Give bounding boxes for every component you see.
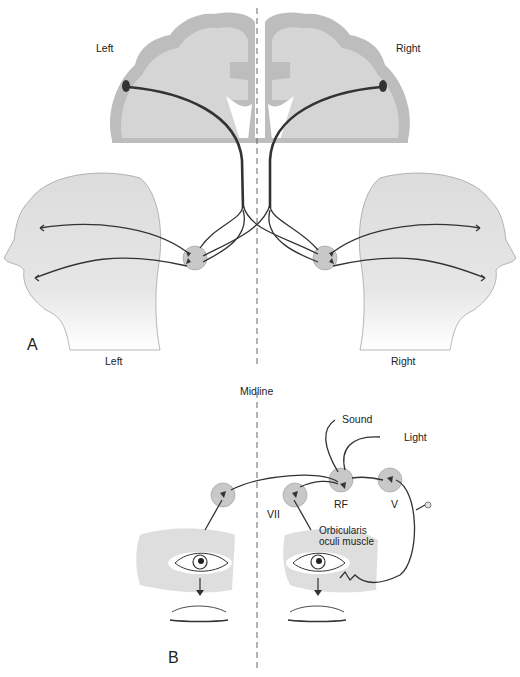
head-left bbox=[4, 173, 161, 350]
sound-label: Sound bbox=[342, 414, 372, 425]
vii-label: VII bbox=[267, 509, 280, 520]
panel-b-label: B bbox=[168, 650, 179, 666]
head-right-label: Right bbox=[391, 356, 416, 367]
figure-canvas: Left Right A Left Right Midline Sound Li… bbox=[0, 0, 520, 677]
v-label: V bbox=[391, 499, 398, 510]
brain-right-label: Right bbox=[396, 43, 421, 54]
orbicularis-label-line1: Orbicularis bbox=[319, 526, 367, 537]
light-label: Light bbox=[404, 432, 427, 443]
head-left-label: Left bbox=[105, 356, 123, 367]
brain-left-label: Left bbox=[96, 43, 114, 54]
brain-section bbox=[110, 12, 410, 143]
rf-label: RF bbox=[334, 499, 348, 510]
panel-a-label: A bbox=[27, 337, 38, 353]
reticular-formation-rf bbox=[329, 468, 353, 492]
orbicularis-left bbox=[136, 529, 235, 622]
diagram-graphics bbox=[0, 0, 520, 677]
orbicularis-label-line2: oculi muscle bbox=[319, 537, 374, 548]
head-right bbox=[359, 173, 516, 350]
midline-label: Midline bbox=[240, 386, 273, 397]
